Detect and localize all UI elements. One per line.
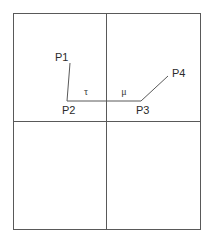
vertex-label-p4: P4 [172, 67, 185, 79]
diagram-canvas: P1 P2 P3 P4 τ μ [0, 0, 216, 239]
angle-label-mu: μ [121, 86, 126, 97]
vertex-label-p2: P2 [62, 104, 75, 116]
vertex-label-p1: P1 [55, 51, 68, 63]
angle-label-tau: τ [84, 86, 88, 97]
vertex-label-p3: P3 [136, 104, 149, 116]
figure-diagram: P1 P2 P3 P4 τ μ [0, 0, 216, 239]
